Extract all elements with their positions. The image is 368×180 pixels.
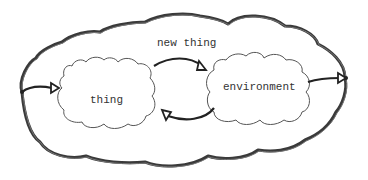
arrow-edge-to-thing	[20, 83, 59, 94]
arrow-environment-to-thing	[162, 108, 214, 120]
label-new-thing: new thing	[157, 38, 216, 49]
arrowhead-icon	[51, 83, 59, 93]
label-thing: thing	[90, 95, 123, 106]
arrowhead-icon	[197, 61, 206, 70]
diagram-canvas	[0, 0, 368, 180]
arrow-thing-to-environment	[154, 59, 206, 71]
arrow-environment-to-edge	[308, 73, 348, 83]
inner-cloud-thing	[58, 57, 155, 128]
arrowhead-icon	[162, 110, 171, 120]
label-environment: environment	[223, 82, 296, 93]
